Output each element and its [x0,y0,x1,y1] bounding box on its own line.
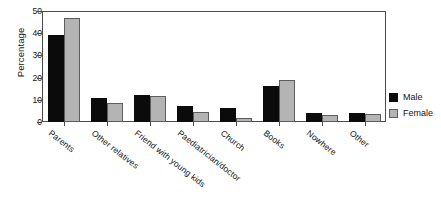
x-axis-tick-mark [322,122,323,126]
bar-male [263,86,279,122]
x-axis-tick-mark [365,122,366,126]
x-axis-tick-mark [193,122,194,126]
legend-item[interactable]: Female [389,105,433,121]
bar-group [134,11,166,122]
bar-group [349,11,381,122]
bar-male [177,106,193,122]
x-axis-tick-label: Nowhere [304,128,338,157]
x-axis-tick-label: Parents [46,128,76,154]
bars-layer [42,11,386,122]
bar-chart-figure: Percentage 01020304050 ParentsOther rela… [0,0,441,207]
bar-female [322,115,338,122]
x-axis-tick-mark [64,122,65,126]
bar-group [306,11,338,122]
bar-male [306,113,322,122]
legend-swatch-male [389,93,398,102]
x-axis-tick-label: Church [218,128,246,153]
bar-male [220,108,236,122]
bar-male [134,95,150,122]
x-axis-tick-mark [236,122,237,126]
bar-group [220,11,252,122]
x-axis-tick-mark [107,122,108,126]
legend-label: Male [403,92,423,102]
bar-female [193,112,209,122]
x-axis-tick-label: Books [261,128,286,151]
bar-group [177,11,209,122]
legend-item[interactable]: Male [389,89,433,105]
legend: MaleFemale [389,89,433,121]
bar-female [365,114,381,122]
bar-female [279,80,295,122]
bar-male [48,35,64,122]
bar-group [91,11,123,122]
bar-male [349,113,365,122]
bar-female [64,18,80,122]
legend-swatch-female [389,109,398,118]
x-axis-tick-label: Friend with young kids [132,128,207,189]
legend-label: Female [403,108,433,118]
x-axis-tick-mark [279,122,280,126]
bar-female [107,103,123,122]
bar-female [236,118,252,122]
y-axis-tick-mark [37,122,42,123]
bar-group [48,11,80,122]
bar-male [91,98,107,122]
x-axis-tick-mark [150,122,151,126]
bar-group [263,11,295,122]
bar-female [150,96,166,122]
x-axis-tick-label: Other [347,128,370,149]
